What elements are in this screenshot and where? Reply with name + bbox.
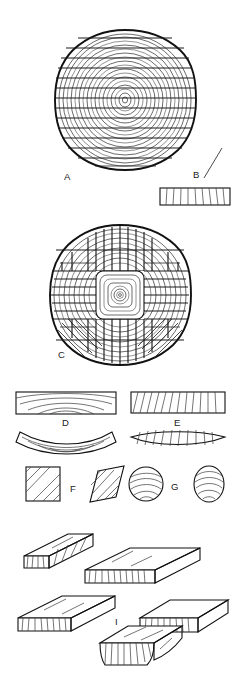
panel-b-board bbox=[160, 188, 230, 205]
log-c-boxed-heart-core bbox=[96, 271, 144, 319]
panel-d-board-before bbox=[16, 392, 116, 414]
panel-d-label: D bbox=[62, 417, 69, 428]
panel-g-label: G bbox=[171, 481, 179, 492]
panel-i-label: I bbox=[115, 616, 118, 627]
panel-a-label: A bbox=[64, 171, 71, 182]
panel-f-square-before bbox=[26, 467, 60, 501]
panel-e-board-before bbox=[131, 392, 225, 413]
panel-e-label: E bbox=[174, 417, 181, 428]
panel-g-circle-before bbox=[129, 467, 163, 501]
figure-canvas: A B bbox=[0, 0, 238, 685]
panel-c-label: C bbox=[58, 349, 65, 360]
panel-g-oval-after bbox=[194, 466, 224, 502]
figure-root: A B bbox=[0, 0, 238, 685]
panel-f-label: F bbox=[70, 483, 76, 494]
panel-b-label: B bbox=[193, 169, 200, 180]
